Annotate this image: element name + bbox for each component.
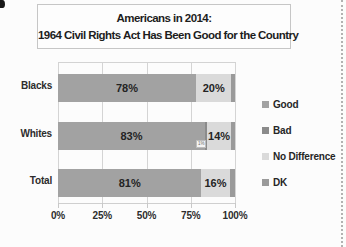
bar-segment-no-difference-total: 16%: [201, 169, 229, 197]
legend-marker-no-difference: [262, 153, 269, 160]
bar-row-whites: 83%14%1%: [58, 122, 235, 150]
x-tick-label: 75%: [181, 210, 200, 221]
micro-callout-label: 1%: [196, 140, 207, 148]
plot-area: 0%25%50%75%100%78%20%83%14%1%81%16%: [58, 62, 236, 204]
scanned-chart-page: Americans in 2014: 1964 Civil Rights Act…: [0, 0, 346, 247]
bar-data-label: 14%: [207, 122, 232, 150]
axis-tick-mark: [191, 203, 192, 208]
legend-item-bad: Bad: [262, 123, 335, 137]
chart-title-line1: Americans in 2014:: [38, 10, 290, 27]
page-edge-dotted-border: [341, 0, 343, 247]
category-label-total: Total: [6, 175, 52, 186]
chart-legend: GoodBadNo DifferenceDK: [262, 97, 335, 201]
bar-data-label: 78%: [58, 74, 196, 102]
bar-segment-good-blacks: 78%: [58, 74, 196, 102]
bar-segment-dk-blacks: [231, 74, 235, 102]
legend-label-dk: DK: [273, 177, 287, 188]
bar-segment-dk-whites: [231, 122, 235, 150]
axis-tick-mark: [235, 203, 236, 208]
bar-segment-dk-total: [230, 169, 235, 197]
legend-item-no-difference: No Difference: [262, 149, 335, 163]
category-label-blacks: Blacks: [6, 80, 52, 91]
x-tick-label: 100%: [223, 210, 248, 221]
legend-marker-dk: [262, 179, 269, 186]
axis-tick-mark: [58, 203, 59, 208]
axis-tick-mark: [102, 203, 103, 208]
bar-segment-no-difference-whites: 14%: [207, 122, 232, 150]
bar-data-label: 81%: [58, 169, 201, 197]
legend-label-no-difference: No Difference: [273, 151, 335, 162]
bar-row-total: 81%16%: [58, 169, 235, 197]
category-label-whites: Whites: [6, 128, 52, 139]
scan-artifact-speck: [0, 0, 5, 8]
x-tick-label: 50%: [137, 210, 156, 221]
bar-data-label: 83%: [58, 122, 205, 150]
legend-marker-bad: [262, 127, 269, 134]
axis-tick-mark: [147, 203, 148, 208]
legend-item-dk: DK: [262, 175, 335, 189]
bar-data-label: 20%: [196, 74, 231, 102]
bar-segment-good-total: 81%: [58, 169, 201, 197]
bar-row-blacks: 78%20%: [58, 74, 235, 102]
x-tick-label: 25%: [93, 210, 112, 221]
chart-title-box: Americans in 2014: 1964 Civil Rights Act…: [37, 4, 291, 49]
bar-segment-good-whites: 83%: [58, 122, 205, 150]
legend-label-bad: Bad: [273, 125, 291, 136]
legend-item-good: Good: [262, 97, 335, 111]
bar-segment-no-difference-blacks: 20%: [196, 74, 231, 102]
chart-title-line2: 1964 Civil Rights Act Has Been Good for …: [38, 27, 290, 44]
legend-marker-good: [262, 101, 269, 108]
gridline-100: [235, 63, 236, 203]
bar-data-label: 16%: [201, 169, 229, 197]
x-tick-label: 0%: [51, 210, 65, 221]
legend-label-good: Good: [273, 99, 298, 110]
